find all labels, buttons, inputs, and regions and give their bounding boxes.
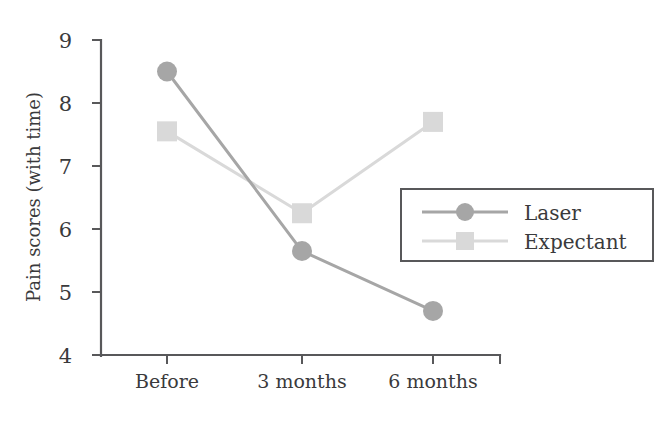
chart-figure: Pain scores (with time) 9 8 7 6 5 4 Befo… — [0, 0, 666, 421]
y-tick-label-7: 7 — [59, 155, 72, 179]
data-point-expectant-0 — [157, 121, 177, 141]
y-axis-label: Pain scores (with time) — [23, 92, 44, 302]
data-point-laser-2 — [423, 301, 443, 321]
y-tick-label-6: 6 — [59, 218, 72, 242]
x-tick-label-3-months: 3 months — [257, 370, 346, 392]
legend-swatch-marker-expectant — [456, 232, 474, 250]
y-tick-label-5: 5 — [59, 281, 72, 305]
x-tick-label-before: Before — [135, 370, 199, 392]
legend-swatch-marker-laser — [456, 203, 474, 221]
y-tick-label-4: 4 — [59, 344, 72, 368]
y-tick-label-9: 9 — [59, 29, 72, 53]
series-line-expectant — [167, 122, 433, 213]
data-point-laser-0 — [157, 62, 177, 82]
y-tick-label-8: 8 — [59, 92, 72, 116]
x-tick-label-6-months: 6 months — [388, 370, 477, 392]
data-point-laser-1 — [292, 241, 312, 261]
line-chart-svg: Pain scores (with time) 9 8 7 6 5 4 Befo… — [0, 0, 666, 421]
data-point-expectant-2 — [423, 112, 443, 132]
chart-legend: Laser Expectant — [401, 189, 653, 261]
series-line-laser — [167, 72, 433, 311]
legend-label-expectant: Expectant — [524, 230, 627, 254]
data-point-expectant-1 — [292, 203, 312, 223]
legend-label-laser: Laser — [524, 201, 581, 225]
